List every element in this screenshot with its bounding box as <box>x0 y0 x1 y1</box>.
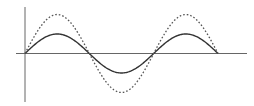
sine-wave-chart <box>0 0 254 106</box>
